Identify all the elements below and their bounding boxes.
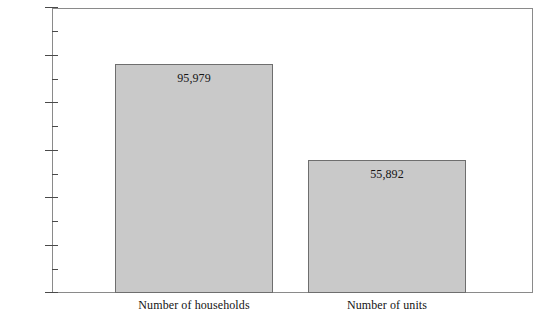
bars-layer: 95,979 55,892	[0, 0, 538, 318]
bar-number-of-units[interactable]: 55,892	[308, 160, 466, 293]
bar-number-of-households[interactable]: 95,979	[115, 64, 273, 293]
x-axis-label-number-of-units: Number of units	[308, 298, 466, 313]
x-axis-label-number-of-households: Number of households	[115, 298, 273, 313]
bar-value-label: 55,892	[309, 167, 465, 181]
bar-value-label: 95,979	[116, 71, 272, 85]
bar-chart: 0 20,000 40,000 60,000 80,000	[0, 0, 538, 318]
